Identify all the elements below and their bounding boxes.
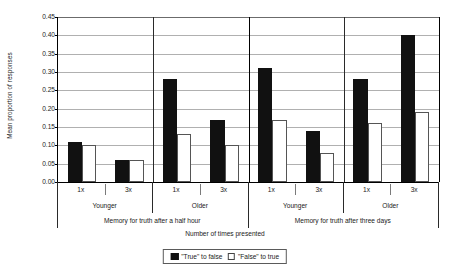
category-rule (105, 184, 106, 195)
category-rule (438, 182, 439, 228)
plot-right-edge (439, 17, 440, 182)
x-tick-label: 3x (105, 182, 153, 197)
x-group-label-age: Older (152, 197, 247, 213)
legend-label-false-to-true: "False" to true (238, 253, 279, 260)
category-axis-zone: 1x3x1x3x1x3x1x3x YoungerOlderYoungerOlde… (57, 182, 438, 228)
category-rule (200, 184, 201, 195)
bar-false-to-true (82, 145, 96, 182)
x-group-label-age: Younger (57, 197, 152, 213)
y-tick-mark (55, 72, 58, 73)
y-axis-title: Mean proportion of responses (6, 11, 13, 181)
y-tick-mark (55, 127, 58, 128)
y-tick-label: 0.20 (42, 105, 55, 112)
plot-area: 0.000.050.100.150.200.250.300.350.400.45 (57, 17, 438, 182)
group-separator (344, 17, 345, 182)
bar-false-to-true (415, 112, 429, 182)
y-tick-label: 0.35 (42, 50, 55, 57)
y-tick-label: 0.10 (42, 142, 55, 149)
x-group-label-delay: Memory for truth after a half hour (57, 213, 248, 228)
bar-true-to-false (68, 142, 82, 182)
x-axis-title: Number of times presented (0, 230, 450, 237)
y-tick-label: 0.25 (42, 87, 55, 94)
x-tick-label: 3x (295, 182, 343, 197)
category-rule (248, 182, 249, 228)
bar-true-to-false (401, 35, 415, 182)
y-tick-mark (55, 17, 58, 18)
bar-false-to-true (368, 123, 382, 182)
y-tick-mark (55, 54, 58, 55)
y-tick-label: 0.00 (42, 179, 55, 186)
chart-legend: "True" to false "False" to true (163, 249, 287, 264)
x-group-label-age: Younger (248, 197, 343, 213)
legend-item-false-to-true: "False" to true (227, 253, 279, 261)
x-group-label-age: Older (343, 197, 438, 213)
y-tick-label: 0.30 (42, 69, 55, 76)
bar-false-to-true (272, 120, 286, 182)
y-tick-mark (55, 164, 58, 165)
x-tick-label: 1x (152, 182, 200, 197)
legend-item-true-to-false: "True" to false (171, 253, 223, 261)
category-rule (152, 182, 153, 213)
bar-false-to-true (225, 145, 239, 182)
y-tick-label: 0.40 (42, 32, 55, 39)
bar-false-to-true (177, 134, 191, 182)
filled-square-icon (171, 253, 179, 261)
bar-true-to-false (258, 68, 272, 182)
bar-true-to-false (163, 79, 177, 182)
bar-true-to-false (115, 160, 129, 182)
x-tick-label: 3x (390, 182, 438, 197)
x-tick-label: 1x (57, 182, 105, 197)
bar-false-to-true (129, 160, 143, 182)
group-separator (249, 17, 250, 182)
bar-chart-figure: Mean proportion of responses 0.000.050.1… (0, 0, 450, 273)
group-separator (153, 17, 154, 182)
category-rule (343, 182, 344, 213)
y-tick-mark (55, 145, 58, 146)
y-tick-mark (55, 90, 58, 91)
y-tick-mark (55, 35, 58, 36)
category-rule (57, 182, 58, 228)
open-square-icon (227, 253, 235, 261)
category-rule (295, 184, 296, 195)
bar-true-to-false (210, 120, 224, 182)
legend-label-true-to-false: "True" to false (181, 253, 222, 260)
y-tick-mark (55, 109, 58, 110)
x-tick-label: 1x (248, 182, 296, 197)
cropped-title-remnant (0, 0, 450, 3)
bar-false-to-true (320, 153, 334, 182)
bar-true-to-false (306, 131, 320, 182)
y-tick-label: 0.45 (42, 14, 55, 21)
x-group-label-delay: Memory for truth after three days (248, 213, 439, 228)
bar-true-to-false (353, 79, 367, 182)
category-rule (390, 184, 391, 195)
y-tick-label: 0.05 (42, 160, 55, 167)
x-tick-label: 1x (343, 182, 391, 197)
x-tick-label: 3x (200, 182, 248, 197)
y-tick-label: 0.15 (42, 124, 55, 131)
